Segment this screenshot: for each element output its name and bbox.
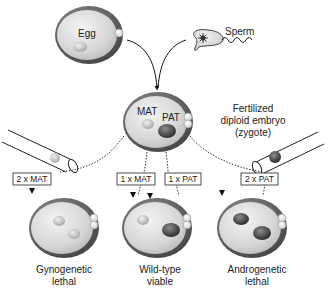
pat-label: PAT [162, 112, 180, 123]
svg-text:viable: viable [147, 276, 174, 287]
paternal-pronucleus [269, 151, 281, 163]
egg-pronucleus [73, 42, 87, 52]
svg-text:Fertilized: Fertilized [233, 103, 274, 114]
mat-label: MAT [137, 106, 157, 117]
maternal-pronucleus [53, 216, 65, 226]
egg-label: Egg [78, 28, 96, 39]
sperm-tail [222, 38, 252, 43]
svg-text:(zygote): (zygote) [235, 127, 271, 138]
svg-text:1 x PAT: 1 x PAT [169, 174, 198, 184]
micropipette-right [250, 132, 324, 176]
paternal-pronucleus [158, 124, 176, 138]
arrow-down-icon [219, 190, 225, 196]
svg-text:lethal: lethal [245, 276, 269, 287]
outcome-caption-androgenetic: Androgenetic lethal [228, 264, 287, 287]
maternal-pronucleus [142, 119, 154, 129]
polar-body [90, 221, 98, 229]
arrow-down-icon [29, 188, 35, 194]
paternal-pronucleus [253, 226, 271, 240]
maternal-pronucleus [137, 215, 149, 225]
egg-cell: Egg [55, 6, 123, 64]
genomic-imprinting-diagram: Egg Sperm MAT PAT Fertilized diploid emb… [0, 0, 330, 291]
egg-to-zygote-arrow [127, 40, 157, 88]
sperm-cell: Sperm [194, 26, 255, 51]
arrow-down-icon [147, 193, 153, 199]
transfer-box-2xpat: 2 x PAT [219, 173, 278, 196]
zygote-caption: Fertilized diploid embryo (zygote) [220, 103, 285, 138]
embryo-androgenetic [217, 198, 287, 258]
svg-text:2 x PAT: 2 x PAT [245, 174, 274, 184]
svg-text:Gynogenetic: Gynogenetic [36, 264, 92, 275]
svg-text:1 x MAT: 1 x MAT [120, 174, 151, 184]
sperm-label: Sperm [225, 26, 254, 37]
svg-text:Wild-type: Wild-type [139, 264, 181, 275]
sperm-to-zygote-arrow [158, 40, 186, 88]
arrow-down-icon [130, 192, 136, 198]
polar-body [183, 221, 191, 229]
svg-text:diploid embryo: diploid embryo [220, 115, 285, 126]
svg-text:2 x MAT: 2 x MAT [16, 174, 47, 184]
transfer-box-2xmat: 2 x MAT [13, 173, 51, 194]
maternal-pronucleus [68, 229, 80, 239]
paternal-pronucleus [162, 223, 180, 237]
sperm-nucleus-icon [198, 33, 208, 43]
micropipette-left [2, 130, 80, 174]
polar-body [184, 120, 192, 128]
zygote-cell: MAT PAT [123, 92, 193, 152]
polar-body [115, 29, 123, 37]
embryo-gynogenetic [29, 198, 99, 258]
maternal-pronucleus [50, 153, 60, 163]
paternal-pronucleus [233, 213, 249, 225]
embryo-wild-type [122, 198, 192, 258]
outcome-caption-gynogenetic: Gynogenetic lethal [36, 264, 92, 287]
polar-body [278, 221, 286, 229]
svg-text:Androgenetic: Androgenetic [228, 264, 287, 275]
outcome-caption-wild-type: Wild-type viable [139, 264, 181, 287]
svg-text:lethal: lethal [52, 276, 76, 287]
